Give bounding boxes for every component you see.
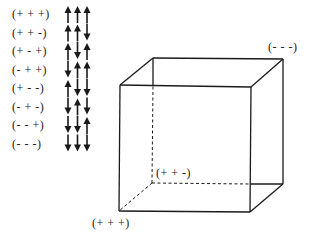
cube-edge <box>119 211 250 212</box>
cube-hidden-edge <box>152 183 250 184</box>
cube-edge <box>251 59 283 87</box>
cube-edge <box>250 184 283 212</box>
cube-hidden-edge <box>152 85 153 183</box>
cube-edge <box>120 85 251 87</box>
cube-edge <box>119 85 120 211</box>
cube-edge <box>153 58 283 59</box>
cube-hidden-edge <box>119 183 152 211</box>
corner-label-front-bottom-left: (+ + +) <box>92 216 130 230</box>
cube-edge <box>250 87 251 212</box>
corner-label-back-top-right: (- - -) <box>268 40 297 54</box>
cube-edge <box>120 58 153 85</box>
cube-diagram <box>0 0 316 238</box>
corner-label-back-bottom-left: (+ + -) <box>156 166 191 180</box>
